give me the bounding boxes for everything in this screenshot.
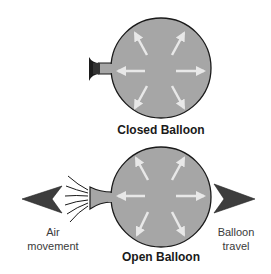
closed-balloon bbox=[89, 18, 211, 118]
air-movement-line2: movement bbox=[18, 239, 88, 253]
balloon-travel-line2: travel bbox=[206, 239, 266, 253]
air-movement-label: Air movement bbox=[18, 225, 88, 253]
open-balloon-label: Open Balloon bbox=[111, 250, 211, 264]
closed-balloon-label: Closed Balloon bbox=[111, 123, 211, 137]
balloon-travel-line1: Balloon bbox=[206, 225, 266, 239]
air-stream-lines bbox=[65, 176, 88, 222]
balloon-travel-label: Balloon travel bbox=[206, 225, 266, 253]
closed-balloon-body bbox=[111, 18, 211, 118]
balloon-travel-arrow-icon bbox=[214, 184, 255, 213]
air-movement-line1: Air bbox=[18, 225, 88, 239]
air-movement-arrow-icon bbox=[22, 186, 62, 213]
